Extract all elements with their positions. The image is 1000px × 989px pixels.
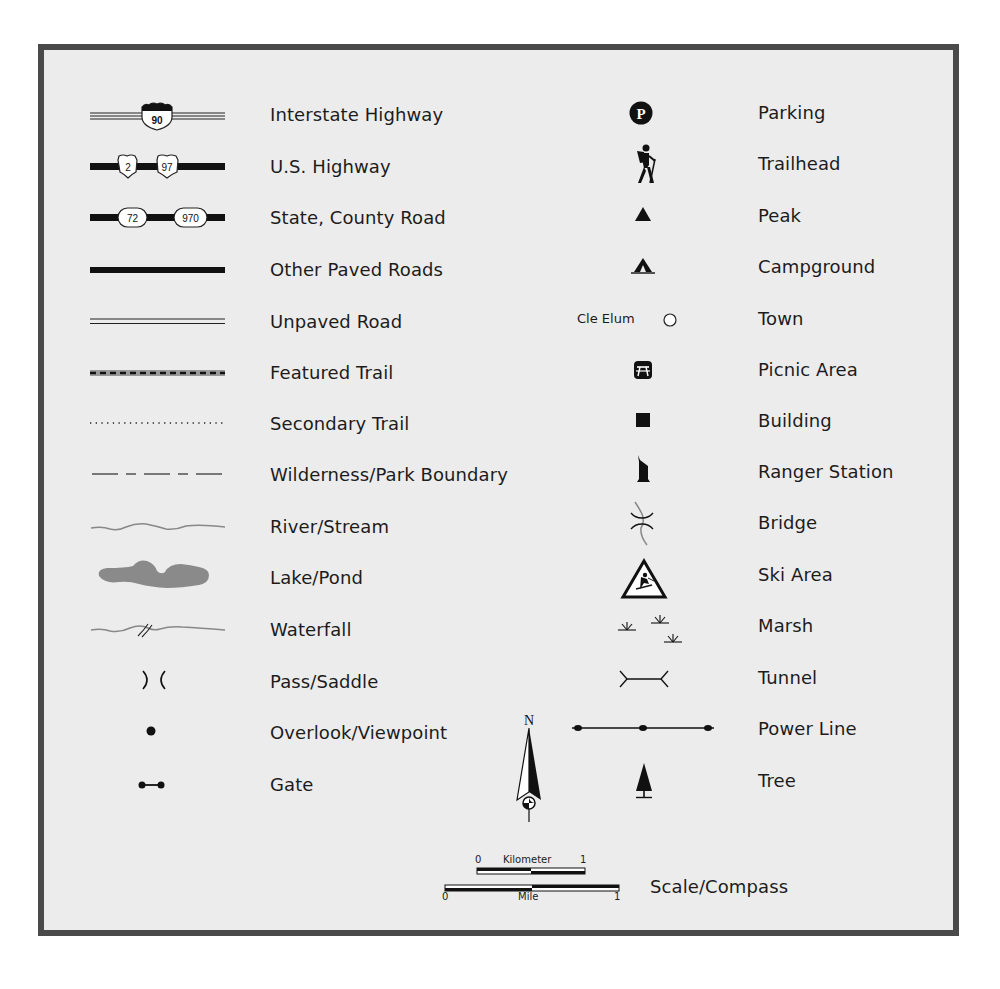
legend-label-state-road: State, County Road <box>270 207 446 229</box>
legend-label-scale-compass: Scale/Compass <box>650 876 788 898</box>
scale-mile-end: 1 <box>614 891 620 902</box>
legend-label-pass: Pass/Saddle <box>270 671 378 693</box>
hiker-icon <box>630 143 660 185</box>
interstate-highway-symbol: 90 <box>90 100 225 132</box>
legend-label-tunnel: Tunnel <box>758 667 817 689</box>
legend-label-trailhead: Trailhead <box>758 153 841 175</box>
parking-icon: P <box>628 100 654 126</box>
paved-road-symbol <box>90 260 225 280</box>
svg-text:2: 2 <box>125 162 131 173</box>
legend-label-tree: Tree <box>758 770 796 792</box>
legend-label-power-line: Power Line <box>758 718 857 740</box>
legend-label-picnic: Picnic Area <box>758 359 858 381</box>
ranger-station-icon <box>634 454 654 484</box>
pass-symbol <box>138 668 172 692</box>
marsh-icon <box>614 612 686 652</box>
boundary-symbol <box>90 466 225 482</box>
picnic-table-icon <box>633 360 653 380</box>
scale-mile-label: Mile <box>518 891 538 902</box>
svg-text:97: 97 <box>161 162 173 173</box>
legend-label-waterfall: Waterfall <box>270 619 351 641</box>
waterfall-symbol <box>90 618 225 640</box>
legend-label-parking: Parking <box>758 102 825 124</box>
us-highway-symbol: 2 97 <box>90 150 225 182</box>
featured-trail-symbol <box>90 365 225 381</box>
legend-label-us-highway: U.S. Highway <box>270 156 391 178</box>
ski-area-icon <box>621 558 667 600</box>
legend-label-unpaved-road: Unpaved Road <box>270 311 402 333</box>
legend-label-lake: Lake/Pond <box>270 567 363 589</box>
svg-text:N: N <box>524 713 534 728</box>
secondary-trail-symbol <box>90 415 225 431</box>
svg-text:970: 970 <box>182 213 199 224</box>
scale-km-start: 0 <box>475 854 481 865</box>
legend-label-town: Town <box>758 308 803 330</box>
scale-km-label: Kilometer <box>503 854 551 865</box>
gate-symbol <box>137 778 167 792</box>
scale-mile-start: 0 <box>442 891 448 902</box>
legend-label-paved-roads: Other Paved Roads <box>270 259 443 281</box>
lake-symbol <box>95 558 220 594</box>
legend-label-ranger-station: Ranger Station <box>758 461 894 483</box>
power-line-icon <box>570 720 716 736</box>
legend-label-building: Building <box>758 410 832 432</box>
legend-label-river: River/Stream <box>270 516 389 538</box>
tree-icon <box>634 762 654 800</box>
legend-label-ski-area: Ski Area <box>758 564 833 586</box>
state-county-road-symbol: 72 970 <box>90 201 225 233</box>
legend-label-interstate: Interstate Highway <box>270 104 443 126</box>
campground-icon <box>630 256 656 276</box>
legend-label-secondary-trail: Secondary Trail <box>270 413 409 435</box>
legend-label-marsh: Marsh <box>758 615 813 637</box>
svg-text:90: 90 <box>151 115 163 126</box>
overlook-symbol <box>144 724 158 738</box>
legend-label-peak: Peak <box>758 205 801 227</box>
town-example-name: Cle Elum <box>577 311 635 326</box>
north-arrow-icon: N <box>510 712 550 832</box>
peak-icon <box>634 206 652 222</box>
legend-label-featured-trail: Featured Trail <box>270 362 393 384</box>
town-icon <box>662 312 678 328</box>
scale-km-end: 1 <box>580 854 586 865</box>
legend-label-overlook: Overlook/Viewpoint <box>270 722 447 744</box>
unpaved-road-symbol <box>90 311 225 331</box>
legend-label-gate: Gate <box>270 774 314 796</box>
tunnel-icon <box>619 667 669 691</box>
building-icon <box>636 413 650 427</box>
legend-label-bridge: Bridge <box>758 512 817 534</box>
legend-label-boundary: Wilderness/Park Boundary <box>270 464 508 486</box>
river-symbol <box>90 514 225 534</box>
bridge-icon <box>625 500 659 548</box>
svg-text:P: P <box>636 106 645 122</box>
svg-text:72: 72 <box>127 213 139 224</box>
legend-label-campground: Campground <box>758 256 875 278</box>
